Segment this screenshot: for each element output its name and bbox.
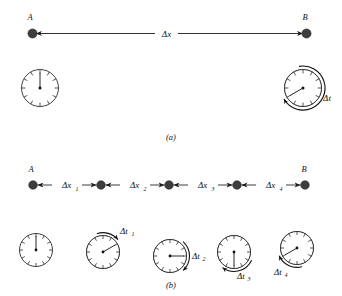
segment-subscript-2: 2 — [144, 186, 147, 192]
clock-b-1: Δt 1 — [87, 226, 135, 269]
panel-b: Δx 1 Δx 2 Δx 3 Δx 4 — [20, 164, 314, 290]
panel-b-segment-1: Δx 1 — [38, 180, 97, 192]
interval-label-3: Δt — [236, 271, 245, 281]
clock-a-end — [284, 66, 325, 110]
panel-b-dot-3 — [233, 181, 242, 190]
panel-b-label-b: B — [301, 164, 306, 174]
segment-label-4: Δx — [265, 180, 275, 190]
segment-label-3: Δx — [197, 180, 207, 190]
segment-subscript-1: 1 — [76, 186, 79, 192]
panel-a-label-b: B — [302, 12, 307, 22]
interval-subscript-1: 1 — [132, 231, 135, 237]
clock-b-4: Δt 4 — [273, 232, 314, 279]
segment-label-1: Δx — [61, 180, 71, 190]
clock-hub — [169, 255, 172, 258]
panel-a: A B Δx — [22, 12, 332, 142]
clock-b-3: Δt 3 — [218, 236, 252, 282]
segment-subscript-3: 3 — [211, 186, 215, 192]
interval-label-4: Δt — [273, 267, 282, 277]
clock-hub — [39, 87, 42, 90]
panel-b-dot-2 — [165, 181, 174, 190]
panel-a-label-a: A — [26, 12, 33, 22]
clock-hub — [302, 87, 305, 90]
clock-b-0 — [20, 234, 53, 267]
interval-label-1: Δt — [119, 226, 128, 236]
interval-subscript-2: 2 — [203, 256, 206, 262]
clock-hub — [296, 247, 299, 250]
panel-a-elapsed-label: Δt — [322, 93, 331, 103]
panel-b-segment-4: Δx 4 — [242, 180, 301, 192]
physics-figure: A B Δx — [0, 0, 342, 296]
segment-subscript-4: 4 — [280, 186, 283, 192]
panel-b-label-a: A — [27, 164, 34, 174]
figure-canvas: A B Δx — [0, 0, 342, 296]
point-a-dot — [28, 29, 37, 38]
clock-b-2: Δt 2 — [154, 240, 206, 273]
panel-b-dot-4 — [301, 181, 310, 190]
clock-hub — [35, 249, 38, 252]
interval-label-2: Δt — [191, 251, 200, 261]
interval-subscript-4: 4 — [285, 272, 288, 278]
panel-b-segment-2: Δx 2 — [106, 180, 165, 192]
clock-hub — [233, 251, 236, 254]
interval-subscript-3: 3 — [247, 276, 251, 282]
clock-a-start — [22, 70, 59, 107]
clock-hub — [102, 251, 105, 254]
point-b-dot — [302, 29, 311, 38]
panel-b-segment-3: Δx 3 — [174, 180, 233, 192]
panel-b-caption: (b) — [166, 280, 176, 290]
panel-b-dot-1 — [97, 181, 106, 190]
segment-label-2: Δx — [129, 180, 139, 190]
panel-b-dot-0 — [29, 181, 38, 190]
panel-a-caption: (a) — [166, 132, 176, 142]
panel-a-displacement-label: Δx — [161, 29, 171, 39]
